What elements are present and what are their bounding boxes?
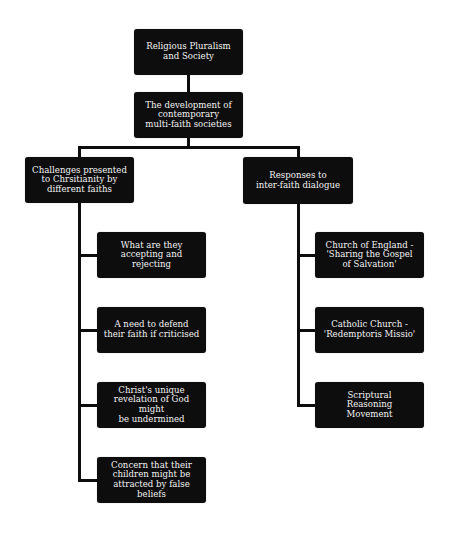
node-left-child-3: Christ's unique revelation of God might …: [97, 382, 206, 428]
connector-left-child-4: [78, 479, 97, 482]
connector-left-child-1: [78, 254, 97, 257]
node-left-child-1: What are they accepting and rejecting: [97, 232, 206, 278]
node-left-child-4-label: Concern that their children might be att…: [100, 461, 203, 499]
node-right-child-3-label: Scriptural Reasoning Movement: [346, 391, 392, 420]
node-right-child-2-label: Catholic Church - 'Redemptoris Missio': [324, 320, 415, 339]
node-level1-label: The development of contemporary multi-fa…: [145, 101, 231, 130]
node-right-branch-label: Responses to inter-faith dialogue: [256, 171, 340, 190]
node-left-branch-label: Challenges presented to Chrsitianity by …: [32, 166, 127, 195]
node-left-branch: Challenges presented to Chrsitianity by …: [25, 157, 134, 203]
node-right-child-2: Catholic Church - 'Redemptoris Missio': [315, 307, 424, 353]
node-left-child-2: A need to defend their faith if criticis…: [97, 307, 206, 353]
connector-branch-horizontal: [78, 146, 300, 149]
node-left-child-1-label: What are they accepting and rejecting: [121, 241, 183, 270]
node-right-child-1: Church of England - 'Sharing the Gospel …: [315, 232, 424, 278]
connector-right-spine: [297, 204, 300, 407]
node-left-child-2-label: A need to defend their faith if criticis…: [104, 320, 200, 339]
connector-right-child-2: [297, 329, 315, 332]
node-left-child-3-label: Christ's unique revelation of God might …: [100, 386, 203, 424]
diagram-canvas: Religious Pluralism and Society The deve…: [0, 0, 450, 534]
node-left-child-4: Concern that their children might be att…: [97, 457, 206, 503]
connector-left-child-3: [78, 404, 97, 407]
node-root-label: Religious Pluralism and Society: [146, 42, 231, 61]
node-right-branch: Responses to inter-faith dialogue: [243, 157, 353, 204]
node-level1: The development of contemporary multi-fa…: [134, 92, 243, 138]
connector-right-child-1: [297, 254, 315, 257]
node-right-child-1-label: Church of England - 'Sharing the Gospel …: [326, 241, 414, 270]
connector-left-child-2: [78, 329, 97, 332]
connector-left-spine: [78, 203, 81, 482]
node-right-child-3: Scriptural Reasoning Movement: [315, 382, 424, 428]
connector-root-to-level1: [187, 75, 190, 92]
connector-right-branch-drop: [297, 146, 300, 157]
connector-right-child-3: [297, 404, 315, 407]
connector-left-branch-drop: [78, 146, 81, 157]
node-root: Religious Pluralism and Society: [134, 29, 243, 75]
